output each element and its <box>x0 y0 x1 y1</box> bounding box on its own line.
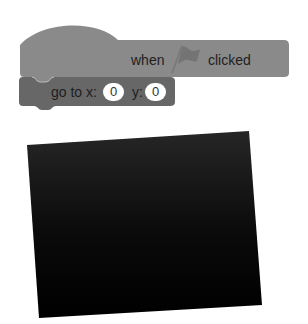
script-area: when clicked go to x: 0 y: 0 <box>0 0 308 120</box>
go-to-xy-block[interactable]: go to x: 0 y: 0 <box>0 0 308 120</box>
motion-block-shape <box>0 0 308 120</box>
stage-preview <box>0 120 308 324</box>
x-value-input[interactable]: 0 <box>103 83 124 101</box>
y-value-input[interactable]: 0 <box>145 83 166 101</box>
go-to-x-label: go to x: <box>51 84 97 100</box>
y-label: y: <box>132 84 143 100</box>
